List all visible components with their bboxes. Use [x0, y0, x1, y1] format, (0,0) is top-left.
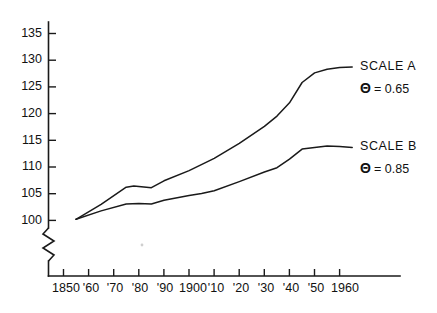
- x-tick-label-1910: '10: [208, 281, 224, 295]
- series-line-scale-b[interactable]: [76, 146, 352, 219]
- x-tick-label-1860: '60: [83, 281, 99, 295]
- series-line-scale-a[interactable]: [76, 67, 352, 219]
- series-group: [76, 67, 352, 219]
- y-tick-label-125: 125: [21, 79, 42, 93]
- scan-artifact-speck: [141, 244, 144, 247]
- x-tick-label-1850: 1850: [52, 281, 80, 295]
- x-axis-ticks: [64, 269, 340, 276]
- y-tick-label-105: 105: [21, 186, 42, 200]
- y-axis-break-icon: [43, 228, 54, 261]
- y-tick-label-115: 115: [22, 133, 42, 147]
- x-axis-group: 1850 '60 '70 '80 '90 1900 '10 '20 '30 '4…: [49, 269, 401, 295]
- x-axis-tick-labels: 1850 '60 '70 '80 '90 1900 '10 '20 '30 '4…: [52, 281, 359, 295]
- x-tick-label-1930: '30: [258, 281, 274, 295]
- y-tick-label-100: 100: [21, 213, 42, 227]
- y-tick-label-110: 110: [22, 159, 42, 173]
- x-tick-label-1950: '50: [308, 281, 324, 295]
- y-tick-label-120: 120: [21, 106, 42, 120]
- x-tick-label-1870: '70: [107, 281, 123, 295]
- y-axis-ticks: [49, 34, 57, 221]
- x-tick-label-1900: 1900: [179, 281, 207, 295]
- legend-label-scale-a: SCALE A: [360, 59, 416, 73]
- x-tick-label-1960: 1960: [331, 281, 359, 295]
- legend-scale-b: SCALE B Θ = 0.85: [360, 139, 417, 176]
- y-tick-label-135: 135: [21, 26, 42, 40]
- x-tick-label-1940: '40: [283, 281, 299, 295]
- y-axis-group: 135 130 125 120 115 110 105 100: [21, 22, 56, 276]
- legend-param-scale-a: = 0.65: [374, 82, 409, 96]
- x-tick-label-1920: '20: [233, 281, 249, 295]
- y-axis-tick-labels: 135 130 125 120 115 110 105 100: [21, 26, 42, 227]
- legend-label-scale-b: SCALE B: [360, 139, 417, 153]
- legend-param-scale-b: = 0.85: [374, 162, 409, 176]
- chart-canvas: 135 130 125 120 115 110 105 100: [0, 0, 437, 313]
- x-tick-label-1880: '80: [132, 281, 148, 295]
- legend-scale-a: SCALE A Θ = 0.65: [360, 59, 416, 96]
- theta-symbol-scale-b: Θ: [360, 160, 371, 176]
- x-tick-label-1890: '90: [157, 281, 173, 295]
- theta-symbol-scale-a: Θ: [360, 80, 371, 96]
- y-tick-label-130: 130: [21, 52, 42, 66]
- chart-figure: 135 130 125 120 115 110 105 100: [0, 0, 437, 313]
